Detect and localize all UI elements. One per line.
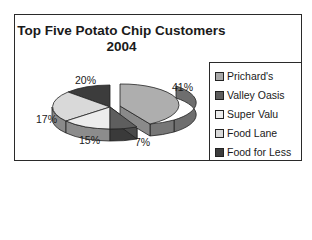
chart-legend: Prichard's Valley Oasis Super Valu Food … [209,62,301,161]
legend-label: Prichard's [227,70,273,82]
label-prichards: 41% [172,81,193,93]
legend-item-valley-oasis: Valley Oasis [215,88,285,102]
legend-swatch [215,148,224,157]
legend-swatch [215,129,224,138]
legend-swatch [215,110,224,119]
legend-item-prichards: Prichard's [215,69,273,83]
legend-label: Food Lane [227,127,277,139]
legend-label: Super Valu [227,108,278,120]
legend-item-super-valu: Super Valu [215,107,278,121]
legend-swatch [215,91,224,100]
label-valley-oasis: 7% [135,136,150,148]
legend-swatch [215,72,224,81]
legend-item-food-for-less: Food for Less [215,145,291,159]
legend-label: Food for Less [227,146,291,158]
legend-label: Valley Oasis [227,89,285,101]
legend-item-food-lane: Food Lane [215,126,277,140]
label-food-lane: 17% [36,113,57,125]
label-food-for-less: 20% [75,74,96,86]
label-super-valu: 15% [79,134,100,146]
